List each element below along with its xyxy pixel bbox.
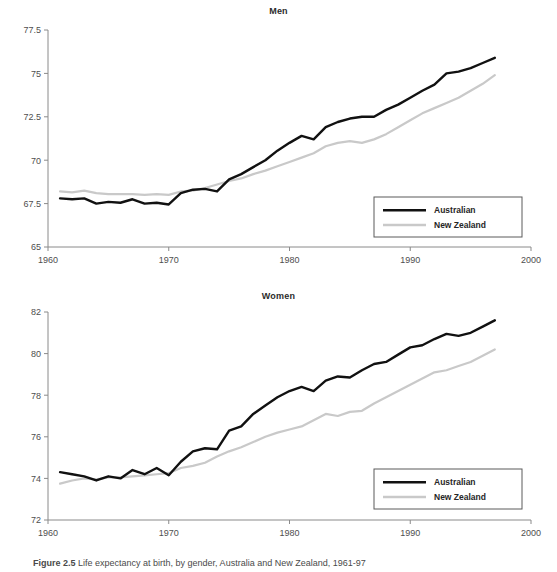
x-axis-tick-label: 1990 (400, 528, 420, 538)
figure-caption: Figure 2.5 Life expectancy at birth, by … (33, 558, 553, 568)
chart-panel-men: Men 6567.57072.57577.5196019701980199020… (0, 0, 557, 285)
x-axis-tick-label: 1980 (279, 255, 299, 265)
y-axis-tick-label: 80 (31, 349, 41, 359)
legend-box (374, 469, 522, 509)
y-axis-tick-label: 65 (31, 242, 41, 252)
legend-label-new-zealand: New Zealand (434, 492, 486, 502)
y-axis-tick-label: 78 (31, 391, 41, 401)
chart-panel-women: Women 72747678808219601970198019902000Au… (0, 285, 557, 547)
x-axis-tick-label: 1960 (38, 528, 58, 538)
y-axis-tick-label: 82 (31, 307, 41, 317)
figure-caption-prefix: Figure 2.5 (33, 558, 76, 568)
chart-plot-men: 6567.57072.57577.519601970198019902000Au… (0, 0, 557, 285)
legend-label-new-zealand: New Zealand (434, 220, 486, 230)
x-axis-tick-label: 1960 (38, 255, 58, 265)
y-axis-tick-label: 72.5 (23, 112, 41, 122)
figure-container: Men 6567.57072.57577.5196019701980199020… (0, 0, 557, 572)
x-axis-tick-label: 1970 (159, 528, 179, 538)
x-axis-tick-label: 1980 (279, 528, 299, 538)
legend-label-australian: Australian (434, 205, 476, 215)
series-line-new-zealand (60, 75, 495, 195)
series-line-new-zealand (60, 349, 495, 483)
x-axis-tick-label: 2000 (521, 255, 541, 265)
x-axis-tick-label: 2000 (521, 528, 541, 538)
legend-box (374, 197, 522, 237)
y-axis-tick-label: 77.5 (23, 25, 41, 35)
y-axis-tick-label: 76 (31, 432, 41, 442)
series-line-australian (60, 320, 495, 480)
chart-plot-women: 72747678808219601970198019902000Australi… (0, 285, 557, 547)
x-axis-tick-label: 1990 (400, 255, 420, 265)
y-axis-tick-label: 72 (31, 515, 41, 525)
y-axis-tick-label: 74 (31, 474, 41, 484)
legend-label-australian: Australian (434, 477, 476, 487)
series-line-australian (60, 58, 495, 205)
figure-caption-text: Life expectancy at birth, by gender, Aus… (78, 558, 366, 568)
x-axis-tick-label: 1970 (159, 255, 179, 265)
y-axis-tick-label: 75 (31, 69, 41, 79)
y-axis-tick-label: 67.5 (23, 199, 41, 209)
y-axis-tick-label: 70 (31, 156, 41, 166)
